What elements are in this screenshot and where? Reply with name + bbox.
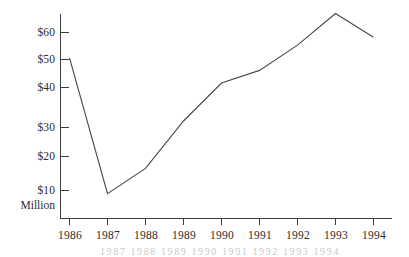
y-tick-label-60: $60 [37,27,55,39]
x-tick-label-1988: 1988 [134,229,158,241]
x-axis-tick-labels: 1986 1987 1988 1989 1990 1991 1992 1993 … [0,229,409,245]
y-tick-label-20: $20 [37,151,55,163]
y-tick-label-50: $50 [37,54,55,66]
y-axis-unit-label: Million [20,200,55,212]
y-axis-ticks [61,33,70,191]
x-axis-ticks [70,219,374,226]
x-tick-label-1991: 1991 [248,229,272,241]
chart-plot-area [0,0,409,257]
y-tick-label-30: $30 [37,122,55,134]
line-chart-figure: $60 $50 $40 $30 $20 $10 Million 1986 198… [0,0,409,257]
page-bleed-text: 1987 1988 1989 1990 1991 1992 1993 1994 [100,247,400,257]
y-tick-label-40: $40 [37,82,55,94]
y-tick-label-10: $10 [37,185,55,197]
x-tick-label-1992: 1992 [286,229,310,241]
x-tick-label-1993: 1993 [324,229,348,241]
x-tick-label-1990: 1990 [210,229,234,241]
x-tick-label-1986: 1986 [58,229,82,241]
x-tick-label-1994: 1994 [362,229,386,241]
y-axis-tick-labels: $60 $50 $40 $30 $20 $10 Million [0,0,55,257]
x-tick-label-1989: 1989 [172,229,196,241]
x-tick-label-1987: 1987 [96,229,120,241]
data-series-line [70,14,374,194]
